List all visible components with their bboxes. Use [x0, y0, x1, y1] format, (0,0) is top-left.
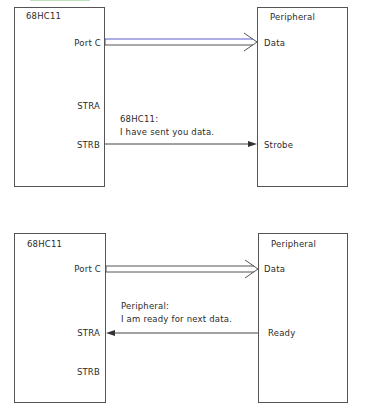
bus-arrow-top: [105, 33, 257, 51]
strobe-arrow: [105, 141, 257, 147]
wires-layer: [0, 0, 365, 419]
ready-arrow: [106, 330, 258, 336]
bus-arrow-bottom: [106, 260, 258, 278]
